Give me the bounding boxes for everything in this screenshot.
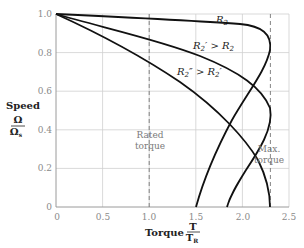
rated-torque-annotation: Rated torque [135,130,165,151]
max-torque-annotation: Max. torque [254,144,284,165]
grid [56,14,289,207]
svg-text:2.5: 2.5 [282,212,297,222]
svg-text:torque: torque [135,141,165,151]
label-r2-double-prime: R2″ > R2′ [176,66,222,79]
axes [56,14,289,207]
label-r2-prime: R2′ > R2 [192,40,235,53]
svg-text:Torque: Torque [145,227,184,238]
svg-text:Speed: Speed [6,100,40,111]
torque-speed-chart: R2 R2′ > R2 R2″ > R2′ Rated torque Max. … [0,0,304,248]
svg-text:0: 0 [54,212,60,222]
svg-text:torque: torque [254,155,284,165]
svg-text:0.2: 0.2 [38,163,52,173]
x-axis-label: Torque T TR [145,221,200,244]
svg-text:Rated: Rated [136,130,163,140]
svg-text:1.0: 1.0 [142,212,157,222]
svg-text:0: 0 [46,202,52,212]
svg-text:R2: R2 [215,14,229,27]
svg-text:1.0: 1.0 [38,9,53,19]
svg-text:Max.: Max. [258,144,281,154]
svg-text:Ωs: Ωs [10,126,23,138]
svg-text:R2″ > R2′: R2″ > R2′ [176,66,222,79]
svg-text:0.5: 0.5 [96,212,111,222]
svg-text:0.6: 0.6 [38,86,53,96]
svg-text:2.0: 2.0 [236,212,251,222]
svg-text:R2′ > R2: R2′ > R2 [192,40,235,53]
y-axis-label: Speed Ω Ωs [6,100,40,138]
svg-text:T: T [189,221,197,232]
svg-text:0.4: 0.4 [38,125,53,135]
label-r2: R2 [215,14,229,27]
x-tick-labels: 0 0.5 1.0 1.5 2.0 2.5 [54,212,296,222]
svg-text:0.8: 0.8 [38,48,53,58]
svg-text:TR: TR [186,232,199,244]
svg-text:Ω: Ω [14,114,23,125]
